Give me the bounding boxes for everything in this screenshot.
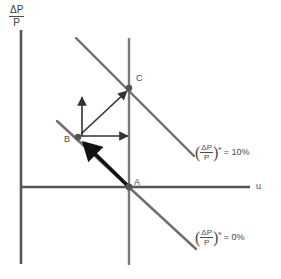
point-label-c: C <box>136 74 143 83</box>
arrow-b-to-c <box>81 91 127 134</box>
arrow-a-to-b <box>84 143 128 186</box>
curve-label-denominator-10: P <box>200 153 213 162</box>
x-axis-label: u <box>256 182 261 191</box>
point-marker-b <box>75 134 81 140</box>
point-label-b: B <box>64 135 70 144</box>
curve-label-denominator-0: P <box>200 238 213 247</box>
curve-label-superscript-0: e <box>218 230 221 236</box>
y-axis-label-numerator: ΔP <box>9 4 24 17</box>
curve-label-pc-0: ( ΔP P ) e = 0% <box>195 228 244 247</box>
curve-label-value-0: = 0% <box>224 233 245 242</box>
point-marker-c <box>126 85 132 91</box>
point-label-a: A <box>134 178 140 187</box>
y-axis-label-denominator: P <box>9 17 24 29</box>
curve-label-numerator-0: ΔP <box>200 228 213 238</box>
curve-label-pc-10: ( ΔP P ) e = 10% <box>195 143 249 162</box>
point-marker-a <box>126 184 133 191</box>
y-axis-label: ΔP P <box>9 4 24 28</box>
curve-label-superscript-10: e <box>218 145 221 151</box>
curve-label-value-10: = 10% <box>224 148 250 157</box>
phillips-curve-10 <box>76 38 194 156</box>
phillips-curve-diagram: ΔP P u A B C ( ΔP P ) e = 10% ( ΔP P ) e… <box>0 0 281 279</box>
curve-label-numerator-10: ΔP <box>200 143 213 153</box>
